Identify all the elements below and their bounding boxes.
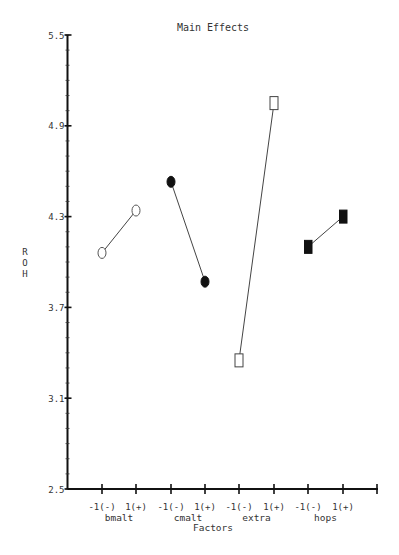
y-axis-label-letter: R xyxy=(22,247,28,257)
factor-label-hops: hops xyxy=(314,512,337,523)
main-effects-chart: Main Effects5.54.94.33.73.12.5ROH-1(-)1(… xyxy=(0,0,399,555)
x-level-label: 1(+) xyxy=(194,502,216,512)
open-square-marker xyxy=(270,97,278,110)
factor-label-extra: extra xyxy=(242,512,271,523)
y-tick-label: 4.3 xyxy=(48,212,64,222)
open-circle-marker xyxy=(98,247,106,258)
x-level-label: 1(+) xyxy=(263,502,285,512)
x-level-label: -1(-) xyxy=(157,502,184,512)
effect-line-extra xyxy=(239,103,274,360)
open-circle-marker xyxy=(132,205,140,216)
x-level-label: -1(-) xyxy=(88,502,115,512)
x-axis-title: Factors xyxy=(193,522,233,533)
x-level-label: 1(+) xyxy=(125,502,147,512)
y-tick-label: 3.1 xyxy=(48,394,64,404)
effect-line-hops xyxy=(308,217,343,247)
factor-label-bmalt: bmalt xyxy=(105,512,134,523)
y-tick-label: 2.5 xyxy=(48,485,64,495)
y-axis-label-letter: O xyxy=(22,258,27,268)
x-level-label: 1(+) xyxy=(332,502,354,512)
x-level-label: -1(-) xyxy=(225,502,252,512)
chart-title: Main Effects xyxy=(177,22,249,33)
effect-line-bmalt xyxy=(102,211,136,253)
y-tick-label: 5.5 xyxy=(48,31,64,41)
filled-square-marker xyxy=(305,240,313,253)
y-tick-label: 3.7 xyxy=(48,303,64,313)
filled-circle-marker xyxy=(201,276,209,287)
filled-square-marker xyxy=(340,210,348,223)
y-tick-label: 4.9 xyxy=(48,121,64,131)
y-axis-label-letter: H xyxy=(22,269,27,279)
open-square-marker xyxy=(235,354,243,367)
filled-circle-marker xyxy=(167,176,175,187)
x-level-label: -1(-) xyxy=(294,502,321,512)
effect-line-cmalt xyxy=(171,182,205,282)
